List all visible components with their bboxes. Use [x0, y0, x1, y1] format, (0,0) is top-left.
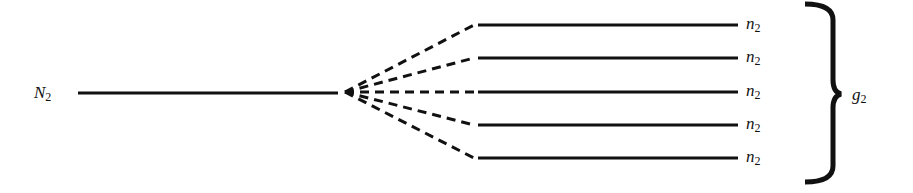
- dashed-connector-4: [345, 92, 474, 125]
- right-level-label-5: n2: [746, 148, 761, 167]
- group-degeneracy-label: g2: [852, 86, 867, 105]
- dashed-connector-1: [345, 25, 474, 92]
- right-level-label-3: n2: [746, 82, 761, 101]
- diagram-lines: [0, 0, 913, 193]
- right-level-label-1: n2: [746, 15, 761, 34]
- left-level-label: N2: [34, 84, 51, 103]
- right-curly-brace: [805, 4, 841, 182]
- dashed-connector-2: [345, 58, 474, 92]
- right-level-label-2: n2: [746, 48, 761, 67]
- right-level-label-4: n2: [746, 115, 761, 134]
- energy-level-splitting-diagram: N2 n2 n2 n2 n2 n2 g2: [0, 0, 913, 193]
- dashed-connector-5: [345, 92, 474, 158]
